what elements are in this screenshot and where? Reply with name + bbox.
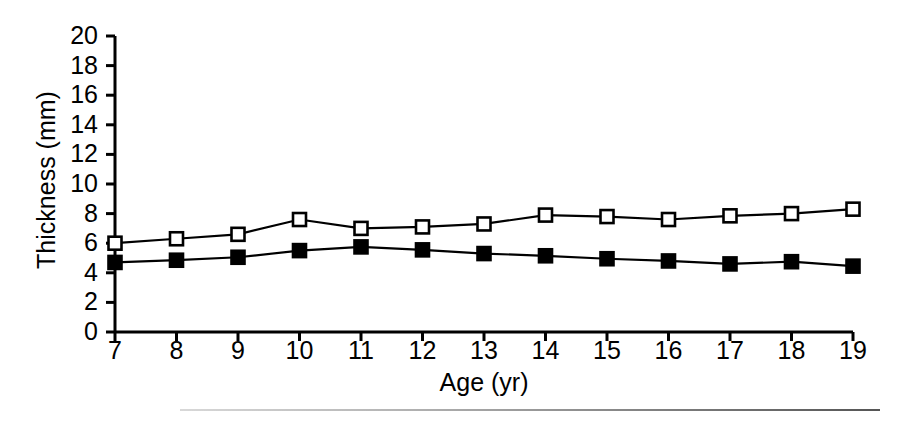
data-point-marker: [601, 210, 614, 223]
data-point-marker: [539, 249, 552, 262]
data-point-marker: [416, 220, 429, 233]
data-point-marker: [355, 222, 368, 235]
data-point-marker: [662, 254, 675, 267]
data-point-marker: [293, 213, 306, 226]
x-tick-label: 10: [270, 338, 330, 363]
data-point-marker: [724, 257, 737, 270]
series-filled-square-series: [109, 240, 860, 272]
page-rule-line: [180, 409, 880, 411]
data-point-marker: [416, 243, 429, 256]
data-point-marker: [847, 203, 860, 216]
x-tick-label: 7: [85, 338, 145, 363]
data-point-marker: [847, 260, 860, 273]
data-point-marker: [601, 252, 614, 265]
x-tick-label: 8: [147, 338, 207, 363]
x-axis-label: Age (yr): [115, 368, 853, 397]
data-point-marker: [478, 247, 491, 260]
x-tick-label: 17: [700, 338, 760, 363]
data-point-marker: [478, 217, 491, 230]
x-tick-label: 16: [639, 338, 699, 363]
data-point-marker: [293, 244, 306, 257]
data-point-marker: [109, 256, 122, 269]
data-point-marker: [170, 232, 183, 245]
data-point-marker: [785, 255, 798, 268]
x-tick-label: 14: [516, 338, 576, 363]
x-tick-label: 15: [577, 338, 637, 363]
x-tick-label: 18: [762, 338, 822, 363]
x-tick-label: 9: [208, 338, 268, 363]
series-open-square-series: [109, 203, 860, 250]
x-tick-label: 12: [393, 338, 453, 363]
axes-lines: [115, 36, 853, 332]
data-point-marker: [232, 228, 245, 241]
data-series-group: [109, 203, 860, 273]
data-point-marker: [662, 213, 675, 226]
data-point-marker: [355, 240, 368, 253]
data-point-marker: [539, 209, 552, 222]
x-tick-label: 13: [454, 338, 514, 363]
data-point-marker: [232, 251, 245, 264]
data-point-marker: [785, 207, 798, 220]
data-point-marker: [109, 237, 122, 250]
data-point-marker: [170, 254, 183, 267]
chart-figure: Thickness (mm) 02468101214161820 7891011…: [0, 0, 899, 423]
x-tick-label: 11: [331, 338, 391, 363]
x-tick-label: 19: [823, 338, 883, 363]
data-point-marker: [724, 209, 737, 222]
